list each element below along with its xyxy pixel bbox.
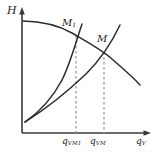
- y-axis-arrow-icon: [19, 7, 25, 15]
- tick-label-qvm1-subscript: VM1: [68, 140, 82, 146]
- x-axis-label-subscript: V: [142, 140, 146, 146]
- system-curve-steep: [25, 24, 82, 122]
- pump-characteristic-figure: H M1 M qVM1 qVM qV: [0, 0, 160, 160]
- point-label-m1-subscript: 1: [72, 21, 76, 28]
- point-label-m1: M1: [62, 18, 76, 29]
- tick-label-qvm1: qVM1: [62, 137, 81, 147]
- point-label-m1-symbol: M: [62, 17, 72, 28]
- pump-head-curve: [23, 21, 140, 85]
- tick-label-qvm-subscript: VM: [96, 140, 106, 146]
- y-axis-label: H: [7, 5, 17, 16]
- tick-label-qvm: qVM: [90, 137, 106, 147]
- x-axis-arrow-icon: [144, 130, 152, 136]
- point-label-m-symbol: M: [97, 33, 107, 44]
- x-axis-label: qV: [136, 137, 146, 147]
- point-label-m: M: [97, 34, 107, 44]
